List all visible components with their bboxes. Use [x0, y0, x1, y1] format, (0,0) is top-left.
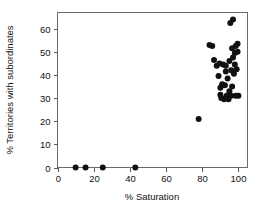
- data-point: [222, 82, 228, 88]
- y-tick-label: 40: [40, 70, 51, 81]
- data-point: [225, 75, 231, 81]
- y-tick-label: 50: [40, 47, 51, 58]
- data-point: [73, 165, 79, 171]
- data-point: [235, 49, 241, 55]
- data-point-series: [73, 16, 242, 170]
- data-point: [209, 43, 215, 49]
- data-point: [223, 68, 229, 74]
- data-point: [230, 16, 236, 22]
- y-tick-label: 20: [40, 116, 51, 127]
- x-tick-label: 80: [197, 173, 208, 184]
- x-tick-label: 60: [161, 173, 172, 184]
- y-axis-tick-labels: 0102030405060: [40, 24, 51, 174]
- data-point: [234, 66, 240, 72]
- data-point: [196, 116, 202, 122]
- data-point: [211, 57, 217, 63]
- x-axis-title: % Saturation: [125, 191, 179, 202]
- x-axis-tick-labels: 020406080100: [56, 173, 247, 184]
- y-tick-label: 0: [45, 163, 50, 174]
- y-axis-title: % Territories with subordinates: [4, 25, 15, 154]
- data-point: [235, 93, 241, 99]
- data-point: [235, 41, 241, 47]
- data-point: [132, 165, 138, 171]
- scatter-plot-figure: 020406080100 0102030405060 % Saturation …: [0, 0, 267, 210]
- data-point: [83, 165, 89, 171]
- x-tick-label: 20: [89, 173, 100, 184]
- y-tick-label: 60: [40, 24, 51, 35]
- data-point: [100, 165, 106, 171]
- y-axis-ticks: [54, 30, 58, 169]
- plot-canvas: 020406080100 0102030405060 % Saturation …: [0, 0, 267, 210]
- x-tick-label: 40: [125, 173, 136, 184]
- y-tick-label: 30: [40, 93, 51, 104]
- data-point: [229, 84, 235, 90]
- y-tick-label: 10: [40, 139, 51, 150]
- data-point: [216, 73, 222, 79]
- x-tick-label: 100: [231, 173, 247, 184]
- x-tick-label: 0: [56, 173, 61, 184]
